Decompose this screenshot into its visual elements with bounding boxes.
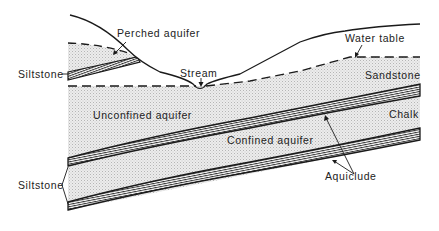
aquifer-diagram: Perched aquifer Stream Water table Silts…	[0, 0, 439, 231]
label-confined-aquifer: Confined aquifer	[227, 134, 314, 146]
label-unconfined-aquifer: Unconfined aquifer	[93, 109, 192, 121]
label-stream: Stream	[180, 67, 217, 79]
label-siltstone-bottom: Siltstone	[18, 179, 64, 191]
label-perched-aquifer: Perched aquifer	[117, 27, 200, 39]
label-aquiclude: Aquiclude	[325, 170, 377, 182]
label-siltstone-top: Siltstone	[18, 68, 64, 80]
label-sandstone: Sandstone	[365, 69, 421, 81]
label-chalk: Chalk	[389, 108, 419, 120]
label-water-table: Water table	[345, 32, 405, 44]
